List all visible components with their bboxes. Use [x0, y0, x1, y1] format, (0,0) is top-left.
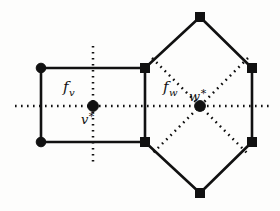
vertex-circle-bottom-left: [36, 137, 46, 147]
vertex-square-hex-right-top: [248, 64, 257, 73]
edge-hex-upper-left: [145, 17, 200, 68]
edge-hex-lower-right: [200, 142, 252, 193]
vertex-square-shared-top: [141, 64, 150, 73]
label-face-fw: fw: [162, 78, 178, 98]
edge-hex-upper-right: [200, 17, 252, 68]
label-face-fv-subscript: v: [69, 87, 75, 98]
label-center-w-star-glyph: *: [201, 87, 207, 100]
vertex-square-hex-right-bottom: [248, 138, 257, 147]
graph-faces-diagram: fv fw v* w*: [0, 0, 280, 211]
label-face-fv: fv: [62, 78, 75, 98]
label-face-fw-subscript: w: [169, 87, 178, 98]
vertex-square-shared-bottom: [141, 138, 150, 147]
vertex-circle-top-left: [36, 63, 46, 73]
label-center-w-star: w*: [189, 87, 207, 104]
label-center-v-star-glyph: *: [89, 110, 95, 123]
vertex-square-hex-bottom: [196, 189, 205, 198]
labels-group: fv fw v* w*: [62, 78, 207, 127]
vertex-square-hex-top: [196, 13, 205, 22]
figure-container: fv fw v* w*: [0, 0, 280, 211]
label-center-v-base: v: [81, 112, 89, 127]
edge-hex-lower-left: [145, 142, 200, 193]
label-center-w-base: w: [189, 89, 200, 104]
